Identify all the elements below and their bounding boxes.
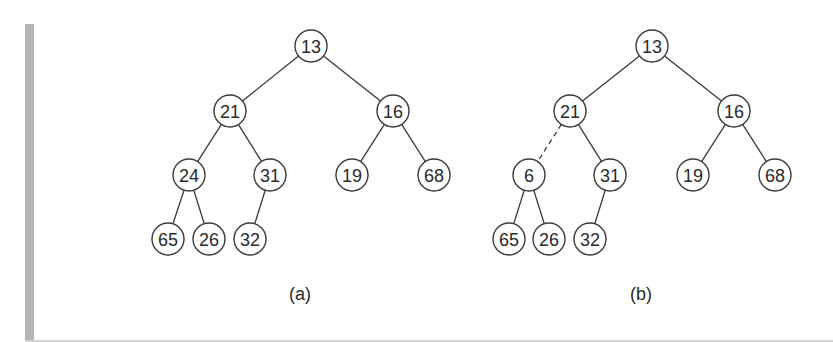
edge-31-32	[255, 190, 265, 223]
edge-16-19	[361, 124, 385, 161]
tree-a: 13211624311968652632 (a)	[152, 30, 450, 304]
node-label: 68	[765, 166, 785, 186]
node-label: 16	[724, 102, 744, 122]
edge-13-21	[242, 56, 298, 101]
node-label: 13	[301, 37, 321, 57]
edge-13-21	[583, 56, 640, 101]
heap-node: 24	[173, 159, 205, 191]
heap-node: 68	[418, 159, 450, 191]
edge-21-6	[538, 124, 562, 161]
node-label: 24	[179, 166, 199, 186]
node-label: 31	[600, 166, 620, 186]
edge-21-24	[198, 124, 222, 161]
tree-b-edges	[514, 56, 767, 224]
heap-node: 26	[193, 223, 225, 255]
node-label: 26	[199, 230, 219, 250]
node-label: 13	[642, 37, 662, 57]
heap-node: 32	[574, 223, 606, 255]
heap-node: 68	[759, 159, 791, 191]
node-label: 68	[424, 166, 444, 186]
heap-node: 13	[295, 30, 327, 62]
heap-node: 6	[513, 159, 545, 191]
binary-heap-diagram: 13211624311968652632 (a) 132116631196865…	[0, 0, 833, 342]
node-label: 65	[158, 230, 178, 250]
heap-node: 21	[554, 95, 586, 127]
node-label: 21	[220, 102, 240, 122]
heap-node: 16	[718, 95, 750, 127]
node-label: 26	[539, 230, 559, 250]
tree-b-nodes: 1321166311968652632	[493, 30, 791, 255]
tree-b: 1321166311968652632 (b)	[493, 30, 791, 304]
node-label: 32	[240, 230, 260, 250]
heap-node: 65	[493, 223, 525, 255]
node-label: 19	[683, 166, 703, 186]
tree-a-edges	[173, 56, 425, 224]
tree-a-nodes: 13211624311968652632	[152, 30, 450, 255]
node-label: 16	[383, 102, 403, 122]
node-label: 6	[524, 166, 534, 186]
heap-node: 21	[214, 95, 246, 127]
heap-node: 65	[152, 223, 184, 255]
caption-b: (b)	[630, 284, 652, 304]
edge-16-68	[743, 124, 767, 161]
edge-24-26	[194, 190, 204, 223]
edge-16-19	[702, 124, 726, 161]
node-label: 31	[260, 166, 280, 186]
edge-13-16	[665, 56, 722, 101]
edge-24-65	[173, 190, 184, 224]
heap-node: 19	[677, 159, 709, 191]
edge-31-32	[595, 190, 605, 223]
heap-node: 31	[254, 159, 286, 191]
edge-21-31	[238, 125, 261, 162]
node-label: 21	[560, 102, 580, 122]
edge-6-26	[534, 190, 544, 223]
edge-21-31	[578, 125, 601, 162]
heap-node: 16	[377, 95, 409, 127]
caption-a: (a)	[289, 284, 311, 304]
node-label: 19	[342, 166, 362, 186]
node-label: 32	[580, 230, 600, 250]
heap-node: 31	[594, 159, 626, 191]
node-label: 65	[499, 230, 519, 250]
heap-node: 19	[336, 159, 368, 191]
edge-16-68	[402, 124, 426, 161]
edge-13-16	[324, 56, 381, 101]
heap-node: 32	[234, 223, 266, 255]
edge-6-65	[514, 190, 524, 223]
heap-node: 13	[636, 30, 668, 62]
heap-node: 26	[533, 223, 565, 255]
